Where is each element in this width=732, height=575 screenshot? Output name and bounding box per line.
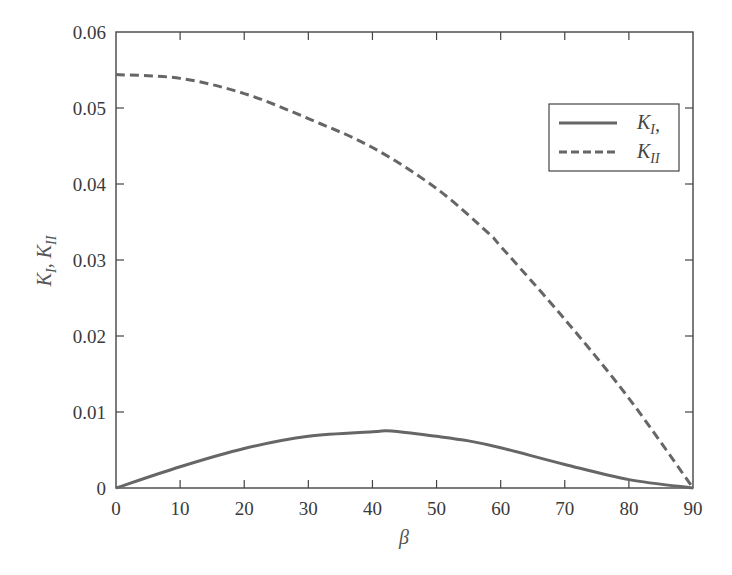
legend: KI, KII <box>549 104 679 171</box>
y-tick-label: 0.01 <box>73 402 106 423</box>
x-tick-label: 70 <box>555 498 574 519</box>
x-tick-label: 50 <box>427 498 446 519</box>
y-axis-title-sep: , K <box>33 243 55 268</box>
y-tick-label: 0.02 <box>73 326 106 347</box>
y-axis-title: KI, KII <box>33 234 59 287</box>
x-tick-label: 90 <box>684 498 703 519</box>
y-tick-label: 0.05 <box>73 98 106 119</box>
y-tick-label: 0.06 <box>73 22 106 43</box>
series-ki-line <box>116 431 693 488</box>
x-axis-title: β <box>398 526 409 549</box>
y-tick-label: 0.03 <box>73 250 106 271</box>
y-tick-label: 0.04 <box>73 174 107 195</box>
svg-text:KI, KII: KI, KII <box>33 234 59 287</box>
x-tick-label: 0 <box>111 498 121 519</box>
y-axis-title-sub2: II <box>44 234 59 246</box>
x-tick-label: 10 <box>171 498 190 519</box>
x-tick-label: 80 <box>619 498 638 519</box>
x-tick-label: 20 <box>235 498 254 519</box>
chart: 0102030405060708090 00.010.020.030.040.0… <box>0 0 732 575</box>
y-tick-label: 0 <box>97 478 107 499</box>
plot-frame <box>116 32 693 488</box>
x-tick-label: 30 <box>299 498 318 519</box>
y-axis-ticks: 00.010.020.030.040.050.06 <box>73 22 693 499</box>
x-tick-label: 60 <box>491 498 510 519</box>
x-tick-label: 40 <box>363 498 382 519</box>
plot-border <box>116 32 693 488</box>
